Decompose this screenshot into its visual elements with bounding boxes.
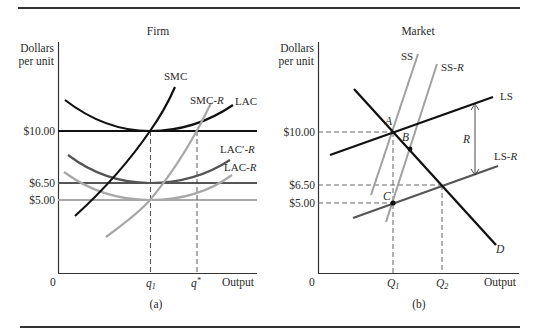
y-tick-5-firm: $5.00 xyxy=(29,194,55,206)
label-ls-r: LS-R xyxy=(494,150,518,162)
y-axis-label-firm-2: per unit xyxy=(19,55,55,68)
label-lac: LAC xyxy=(235,95,257,107)
label-ls: LS xyxy=(500,90,513,102)
y-tick-650-firm: $6.50 xyxy=(29,177,55,189)
caption-b: (b) xyxy=(412,298,426,311)
y-tick-10-firm: $10.00 xyxy=(23,125,55,137)
y-tick-5-market: $5.00 xyxy=(289,197,315,209)
panel-title-firm: Firm xyxy=(147,25,169,37)
point-b-label: B xyxy=(402,131,409,143)
ss-r-curve xyxy=(386,64,437,222)
x-axis-label-market: Output xyxy=(484,276,517,289)
x-tick-Q2: Q2 xyxy=(436,277,448,291)
panel-title-market: Market xyxy=(401,25,435,37)
x-tick-Q1: Q1 xyxy=(387,277,399,291)
panel-firm: Firm Dollars per unit SMC SMC-R LAC LAC′… xyxy=(19,25,257,311)
caption-a: (a) xyxy=(150,298,163,311)
point-a-label: A xyxy=(384,115,393,127)
y-axis-label-market-2: per unit xyxy=(279,55,315,68)
rent-label: R xyxy=(462,133,470,145)
y-axis-label-firm-1: Dollars xyxy=(20,42,54,54)
label-lac-prime-r: LAC′-R xyxy=(220,143,255,155)
y-axis-label-market-1: Dollars xyxy=(280,42,314,54)
ls-curve xyxy=(330,97,493,155)
figure-canvas: Firm Dollars per unit SMC SMC-R LAC LAC′… xyxy=(0,0,542,335)
point-b-dot xyxy=(408,147,413,152)
origin-firm: 0 xyxy=(50,276,56,288)
point-c-label: C xyxy=(383,190,391,202)
label-smc-r: SMC-R xyxy=(190,94,224,106)
label-smc: SMC xyxy=(164,70,187,82)
y-tick-650-market: $6.50 xyxy=(289,179,315,191)
origin-market: 0 xyxy=(309,276,315,288)
label-lac-r: LAC-R xyxy=(224,161,257,173)
lac-r-curve xyxy=(64,172,232,200)
label-ss-r: SS-R xyxy=(441,61,464,73)
x-axis-label-firm: Output xyxy=(222,276,255,289)
label-d: D xyxy=(495,243,505,255)
x-tick-qstar: q* xyxy=(191,276,201,290)
y-tick-10-market: $10.00 xyxy=(283,126,315,138)
lac-prime-r-curve xyxy=(68,155,230,183)
smc-curve xyxy=(75,87,175,216)
label-ss: SS xyxy=(401,50,413,62)
x-tick-q1: q1 xyxy=(146,277,156,291)
ss-curve xyxy=(371,54,418,195)
panel-market: Market Dollars per unit R A B C SS xyxy=(279,25,519,311)
point-c-dot xyxy=(390,200,395,205)
